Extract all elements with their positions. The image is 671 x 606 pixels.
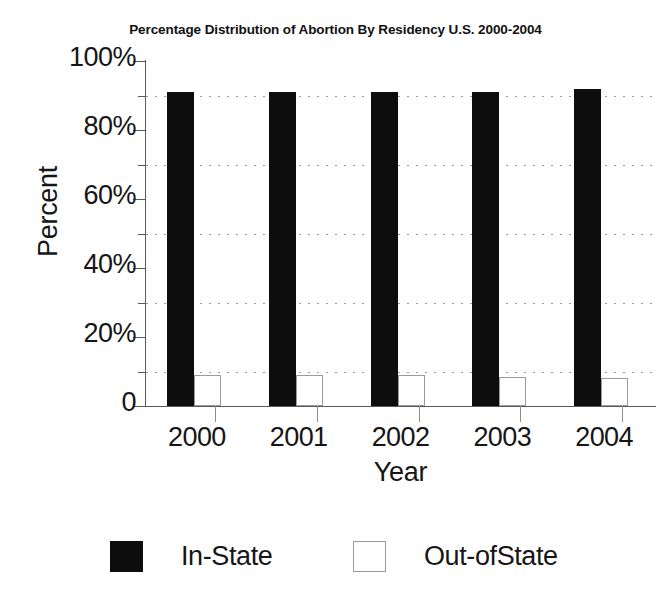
x-axis-tick — [317, 406, 318, 422]
y-axis-tick-label: 100% — [6, 42, 136, 73]
bar-in-state-2003[interactable] — [472, 92, 499, 406]
y-axis-title: Percent — [33, 142, 64, 282]
legend-item-out-of-state[interactable]: Out-ofState — [353, 536, 558, 576]
x-axis-title: Year — [145, 457, 656, 488]
bar-out-ofstate-2000[interactable] — [194, 375, 221, 406]
y-axis-minor-tick — [138, 303, 146, 304]
legend-label-in-state: In-State — [181, 541, 272, 572]
bar-out-ofstate-2001[interactable] — [296, 375, 323, 406]
bar-in-state-2002[interactable] — [371, 92, 398, 406]
x-axis-tick — [419, 406, 420, 422]
bar-out-ofstate-2003[interactable] — [499, 377, 526, 406]
bar-out-ofstate-2002[interactable] — [398, 375, 425, 406]
bar-out-ofstate-2004[interactable] — [601, 378, 628, 406]
y-axis-tick-label: 40% — [6, 249, 136, 280]
legend-label-out-of-state: Out-ofState — [424, 541, 558, 572]
x-axis-tick — [520, 406, 521, 422]
chart-title: Percentage Distribution of Abortion By R… — [0, 22, 671, 37]
y-axis-minor-tick — [138, 372, 146, 373]
x-axis-tick-label-2004: 2004 — [544, 422, 664, 453]
legend-item-in-state[interactable]: In-State — [110, 536, 272, 576]
chart-container: Percentage Distribution of Abortion By R… — [0, 0, 671, 606]
x-axis-tick — [215, 406, 216, 422]
y-axis-tick-label: 80% — [6, 111, 136, 142]
plot-area — [146, 61, 655, 406]
y-axis-tick-label: 60% — [6, 180, 136, 211]
y-axis-tick-label: 20% — [6, 318, 136, 349]
y-axis-minor-tick — [138, 165, 146, 166]
bar-in-state-2001[interactable] — [269, 92, 296, 406]
y-axis-minor-tick — [138, 234, 146, 235]
x-axis-tick — [622, 406, 623, 422]
chart-legend: In-State Out-ofState — [0, 536, 671, 586]
bar-in-state-2000[interactable] — [167, 92, 194, 406]
legend-swatch-in-state-icon — [110, 541, 143, 572]
y-axis-tick-label: 0 — [6, 387, 136, 418]
legend-swatch-out-of-state-icon — [353, 541, 386, 572]
bar-in-state-2004[interactable] — [574, 89, 601, 406]
y-axis-minor-tick — [138, 96, 146, 97]
x-axis-line — [145, 406, 656, 407]
